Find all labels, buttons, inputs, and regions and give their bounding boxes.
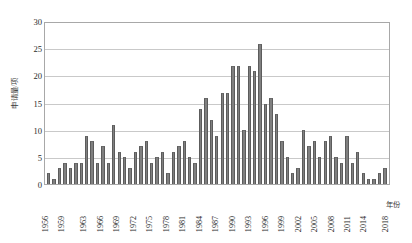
bar (80, 163, 83, 184)
bar (90, 141, 93, 184)
y-tick-0: 0 (14, 181, 42, 190)
y-tick-10: 10 (14, 126, 42, 135)
bar (58, 168, 61, 184)
bar (69, 168, 72, 184)
bar (258, 44, 261, 184)
y-tick-30: 30 (14, 18, 42, 27)
x-tick-1959: 1959 (58, 216, 66, 232)
bar (74, 163, 77, 184)
bar (340, 163, 343, 184)
bar (172, 152, 175, 184)
bar (253, 71, 256, 184)
bar (329, 136, 332, 184)
x-tick-1975: 1975 (146, 216, 154, 232)
bar (367, 179, 370, 184)
bar (210, 120, 213, 184)
bar (280, 141, 283, 184)
bar-slot (382, 23, 387, 184)
bar (242, 130, 245, 184)
bar (307, 146, 310, 184)
bar (139, 146, 142, 184)
bar (372, 179, 375, 184)
x-tick-2002: 2002 (294, 216, 302, 232)
bar (378, 173, 381, 184)
bar (107, 163, 110, 184)
x-tick-1966: 1966 (97, 216, 105, 232)
bar (226, 93, 229, 184)
x-tick-1972: 1972 (130, 216, 138, 232)
x-tick-1956: 1956 (42, 216, 50, 232)
bar-chart-figure: 申请量/项 051015202530 195619591963196619691… (0, 0, 412, 243)
x-tick-1999: 1999 (278, 216, 286, 232)
bar (96, 163, 99, 184)
bar (383, 168, 386, 184)
bar (52, 179, 55, 184)
bar (221, 93, 224, 184)
x-tick-1987: 1987 (212, 216, 220, 232)
bar (183, 141, 186, 184)
bar (356, 152, 359, 184)
bar (275, 114, 278, 184)
bar (123, 157, 126, 184)
bar (150, 163, 153, 184)
x-tick-1990: 1990 (228, 216, 236, 232)
bar (286, 157, 289, 184)
bar (351, 163, 354, 184)
y-axis-tick-labels: 051015202530 (12, 0, 42, 243)
bar (291, 173, 294, 184)
x-tick-1963: 1963 (80, 216, 88, 232)
x-tick-2018: 2018 (382, 216, 390, 232)
bar (47, 173, 50, 184)
bar (237, 66, 240, 184)
bar (145, 141, 148, 184)
x-tick-1984: 1984 (196, 216, 204, 232)
bar (313, 141, 316, 184)
bar (231, 66, 234, 184)
bar (199, 109, 202, 184)
bar (134, 152, 137, 184)
bar (155, 157, 158, 184)
x-tick-1981: 1981 (179, 216, 187, 232)
bar (215, 136, 218, 184)
bar (296, 168, 299, 184)
bar (324, 141, 327, 184)
bar (204, 98, 207, 184)
bar (161, 152, 164, 184)
x-tick-1969: 1969 (113, 216, 121, 232)
x-tick-2014: 2014 (360, 216, 368, 232)
y-tick-15: 15 (14, 99, 42, 108)
bar (264, 104, 267, 185)
bar (101, 146, 104, 184)
bar (269, 98, 272, 184)
bar (193, 163, 196, 184)
bar (302, 130, 305, 184)
x-tick-2005: 2005 (311, 216, 319, 232)
bar (128, 168, 131, 184)
x-axis-tick-labels: 1956195919631966196919721975197819811984… (44, 186, 390, 234)
x-tick-1996: 1996 (261, 216, 269, 232)
bar (318, 157, 321, 184)
x-tick-2008: 2008 (327, 216, 335, 232)
x-tick-2011: 2011 (344, 216, 352, 232)
y-tick-5: 5 (14, 154, 42, 163)
bar-series (45, 23, 389, 184)
bar (112, 125, 115, 184)
y-tick-25: 25 (14, 45, 42, 54)
y-tick-20: 20 (14, 72, 42, 81)
plot-area (44, 22, 390, 185)
bar (177, 146, 180, 184)
bar (85, 136, 88, 184)
bar (166, 173, 169, 184)
x-tick-1993: 1993 (245, 216, 253, 232)
bar (345, 136, 348, 184)
x-tick-1978: 1978 (163, 216, 171, 232)
bar (362, 173, 365, 184)
bar (334, 157, 337, 184)
bar (248, 66, 251, 184)
x-axis-title: 年份 (386, 198, 400, 209)
bar (118, 152, 121, 184)
bar (63, 163, 66, 184)
bar (188, 157, 191, 184)
